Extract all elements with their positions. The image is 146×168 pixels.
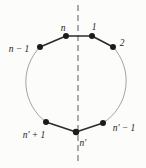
circle-arc-right bbox=[103, 47, 126, 123]
vertex-label-n-prime: n′ bbox=[80, 138, 88, 148]
vertex-label-n: n bbox=[61, 23, 66, 33]
vertex-label-1: 1 bbox=[92, 22, 97, 32]
vertex-dot-n-prime-minus-1 bbox=[100, 120, 106, 126]
diagram-canvas: n 1 2 n − 1 n′ + 1 n′ n′ − 1 bbox=[0, 0, 146, 168]
edge-1-2 bbox=[92, 36, 113, 47]
vertex-dot-2 bbox=[110, 44, 116, 50]
cycle-graph-figure: n 1 2 n − 1 n′ + 1 n′ n′ − 1 bbox=[0, 0, 146, 168]
vertex-dot-n-minus-1 bbox=[37, 44, 43, 50]
vertex-label-n-minus-1: n − 1 bbox=[9, 44, 30, 54]
edge-nprimeplus1-nprime bbox=[46, 122, 76, 132]
circle-arc-left bbox=[26, 47, 46, 122]
vertex-label-2: 2 bbox=[120, 38, 125, 48]
edge-nprime-nprimeminus1 bbox=[76, 123, 103, 132]
vertex-dot-n-prime-plus-1 bbox=[43, 119, 49, 125]
vertex-label-n-prime-plus-1: n′ + 1 bbox=[23, 130, 46, 140]
vertex-dot-n bbox=[63, 33, 69, 39]
vertex-dot-1 bbox=[89, 33, 95, 39]
vertex-dot-n-prime bbox=[73, 129, 79, 135]
vertex-label-n-prime-minus-1: n′ − 1 bbox=[113, 123, 136, 133]
edge-nminus1-n bbox=[40, 36, 66, 47]
